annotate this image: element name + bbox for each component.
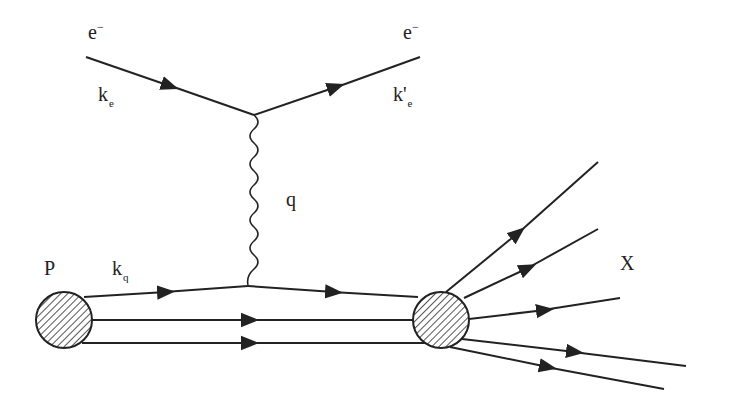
proton-blob xyxy=(36,292,92,348)
hadronization-blob xyxy=(413,292,469,348)
diagram-graphics xyxy=(0,0,730,407)
label-final-state: X xyxy=(620,253,634,273)
label-outgoing-momentum: k'e xyxy=(393,84,412,104)
label-quark-momentum: kq xyxy=(112,258,128,278)
label-photon-momentum: q xyxy=(286,189,296,209)
label-incoming-momentum: ke xyxy=(98,84,113,104)
photon-line xyxy=(248,115,258,285)
label-proton: P xyxy=(44,258,55,278)
quark-line xyxy=(84,286,418,297)
label-outgoing-electron: e− xyxy=(403,22,419,42)
spectator-quark-lines xyxy=(82,320,428,343)
hadron-lines xyxy=(446,162,686,389)
label-incoming-electron: e− xyxy=(88,22,104,42)
feynman-diagram: e− ke e− k'e q P kq X xyxy=(0,0,730,407)
